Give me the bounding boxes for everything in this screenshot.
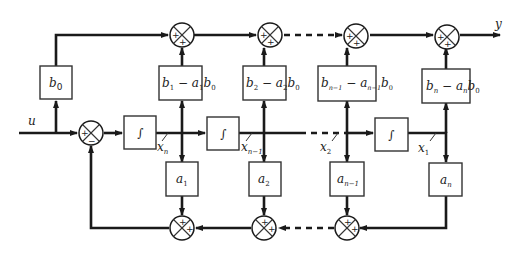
svg-text:x1: x1 — [418, 141, 429, 157]
svg-text:+: + — [351, 224, 359, 234]
gain-block-cn1: bn−1 − an−1b0 — [318, 66, 393, 101]
state-label-x2: x2 — [320, 133, 338, 156]
sum-junction-top-1: ++ — [170, 23, 194, 47]
gain-block-b0: b0 — [40, 66, 72, 99]
svg-text:+: + — [353, 38, 361, 48]
sum-junction-input: + − — [79, 121, 103, 146]
svg-text:−: − — [88, 136, 96, 146]
sum-junction-top-2: ++ — [258, 23, 282, 47]
svg-text:+: + — [179, 37, 187, 47]
gain-block-a2: a2 — [249, 162, 281, 196]
svg-text:x2: x2 — [320, 140, 331, 156]
gain-block-cn: bn − anb0 — [422, 69, 480, 103]
input-label-u: u — [28, 114, 36, 128]
sum-junction-bottom-1: ++ — [170, 216, 194, 240]
svg-text:+: + — [268, 224, 276, 234]
gain-block-c1: b1 − a1b0 — [159, 66, 216, 100]
svg-text:xn: xn — [157, 140, 169, 156]
svg-text:+: + — [186, 224, 194, 234]
integrator-2: ∫ — [207, 117, 239, 150]
gain-block-c2: b2 − a2b0 — [243, 66, 300, 100]
sum-junction-bottom-3: ++ — [335, 216, 359, 240]
state-label-xn-1: xn−1 — [241, 133, 263, 156]
state-label-x1: x1 — [418, 133, 436, 157]
svg-text:∫: ∫ — [388, 128, 395, 142]
svg-text:∫: ∫ — [220, 127, 227, 141]
svg-text:+: + — [444, 39, 452, 49]
svg-text:+: + — [267, 37, 275, 47]
block-diagram: b0 b1 − a1b0 b2 − a2b0 bn−1 − an−1b0 bn … — [0, 0, 512, 257]
svg-text:xn−1: xn−1 — [241, 140, 263, 156]
sum-junction-top-4: ++ — [435, 25, 459, 49]
output-label-y: y — [494, 17, 502, 31]
sum-junction-bottom-2: ++ — [252, 216, 276, 240]
integrator-3: ∫ — [375, 118, 408, 151]
gain-block-an1: an−1 — [330, 162, 364, 196]
state-label-xn: xn — [157, 133, 169, 156]
gain-block-an: an — [429, 163, 462, 196]
sum-junction-top-3: ++ — [344, 24, 368, 48]
svg-text:∫: ∫ — [137, 126, 144, 140]
gain-block-a1: a1 — [166, 162, 198, 196]
integrator-1: ∫ — [124, 116, 156, 149]
